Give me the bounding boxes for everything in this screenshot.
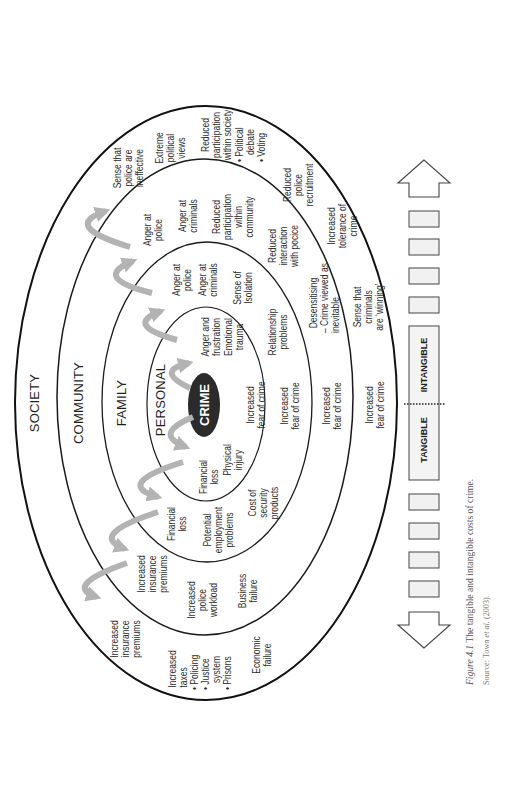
society-cost-label: Increased taxes • Policing • Justice sys… xyxy=(167,650,233,690)
source-etal: et al. xyxy=(482,621,491,637)
scale-box xyxy=(409,552,439,568)
scale-box xyxy=(409,239,439,255)
figure-number: Figure 4.1 xyxy=(464,645,475,685)
personal-cost-label: Physical injury xyxy=(222,444,244,476)
society-cost-label: Extreme political views xyxy=(154,132,187,164)
community-cost-label: Increased fear of crime xyxy=(321,382,343,429)
source-year: (2003). xyxy=(482,595,491,621)
community-cost-label: Increased insurance premiums xyxy=(136,555,169,592)
ring-title-community: COMMUNITY xyxy=(71,362,86,444)
arrow-left-icon xyxy=(398,612,450,648)
family-cost-label: Sense of Isolation xyxy=(232,271,254,305)
family-cost-label: Financial loss xyxy=(166,507,188,541)
family-cost-label: Increased fear of crime xyxy=(279,382,301,429)
society-cost-label: Increased fear of crime xyxy=(364,381,386,428)
curved-arrow-icon xyxy=(116,261,152,293)
personal-cost-label: Emotional trauma xyxy=(223,318,245,356)
source-prefix: Source: Town xyxy=(482,638,491,686)
society-cost-label: Sense that criminals are ‘winning’ xyxy=(352,283,385,330)
ring-title-family: FAMILY xyxy=(114,380,129,426)
community-cost-label: Reduced participation within community xyxy=(211,194,255,240)
family-cost-label: Anger at police xyxy=(171,264,193,296)
arrow-right-icon xyxy=(398,160,450,197)
personal-cost-label: Increased fear of crime xyxy=(245,381,267,428)
community-cost-label: Business failure xyxy=(237,574,259,608)
scale-box xyxy=(409,268,439,284)
community-cost-label: Anger at police xyxy=(142,214,164,246)
scale-box xyxy=(409,494,439,510)
curved-arrow-icon xyxy=(145,311,177,340)
community-cost-label: Desensitising – Crime viewed as inevitab… xyxy=(308,263,341,333)
figure-source: Source: Town et al. (2003). xyxy=(482,595,491,685)
figure-title: The tangible and intangible costs of cri… xyxy=(464,479,475,645)
curved-arrow-icon xyxy=(172,363,190,388)
family-cost-label: Potential employment problems xyxy=(202,507,235,553)
curved-arrow-icon xyxy=(140,462,183,497)
scale-box xyxy=(409,523,439,539)
curved-arrow-icon xyxy=(112,512,158,549)
personal-cost-label: Financial loss xyxy=(198,460,220,494)
community-cost-label: Increased police workload xyxy=(186,581,219,618)
scale-box xyxy=(409,211,439,227)
community-cost-label: Reduced interaction with pocice xyxy=(267,225,300,267)
crime-costs-figure: SOCIETY COMMUNITY FAMILY PERSONAL CRIME … xyxy=(0,0,517,798)
family-cost-label: Cost of security products xyxy=(247,487,280,520)
figure-caption: Figure 4.1 The tangible and intangible c… xyxy=(464,479,475,685)
intangible-label: INTANGIBLE xyxy=(419,338,429,392)
society-cost-label: Increased insurance premiums xyxy=(109,620,142,657)
ring-title-personal: PERSONAL xyxy=(153,364,168,436)
society-cost-label: Reduced police recruitment xyxy=(282,164,315,207)
society-cost-label: Sense that police are ineffective xyxy=(112,148,145,189)
personal-cost-label: Anger and frustration xyxy=(200,317,222,356)
scale-box xyxy=(409,297,439,313)
society-cost-label: Increased tolerance of crime xyxy=(326,204,359,248)
society-cost-bullets: • Political debate • Voting xyxy=(234,127,267,162)
curved-arrow-icon xyxy=(171,417,193,447)
scale-box xyxy=(409,581,439,597)
ring-title-society: SOCIETY xyxy=(27,374,42,432)
family-cost-label: Anger at criminals xyxy=(197,263,219,297)
society-cost-label: Economic failure xyxy=(251,636,273,673)
family-cost-label: Relationship problems xyxy=(267,309,289,356)
center-label-crime: CRIME xyxy=(197,384,212,426)
community-cost-label: Anger at criminals xyxy=(177,199,199,233)
tangible-label: TANGIBLE xyxy=(419,417,429,462)
society-cost-label: Reduced participation within society xyxy=(200,110,233,161)
